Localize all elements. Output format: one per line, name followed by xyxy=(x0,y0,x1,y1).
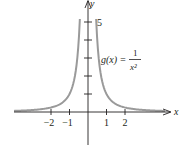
function-lhs: g(x) = xyxy=(101,54,129,66)
x-tick-label: 2 xyxy=(123,117,128,128)
curve-left-branch xyxy=(14,19,80,111)
y-axis-label: y xyxy=(89,0,95,9)
axes xyxy=(14,1,171,146)
fraction-denominator: x² xyxy=(129,62,137,72)
x-axis-label: x xyxy=(173,106,179,117)
function-label: g(x) = 1 x² xyxy=(101,48,141,72)
x-tick-label: −2 xyxy=(44,117,55,128)
curve-g-of-x xyxy=(14,19,165,111)
fraction-numerator: 1 xyxy=(133,48,138,58)
x-tick-label: 1 xyxy=(104,117,109,128)
x-tick-label: −1 xyxy=(62,117,73,128)
function-graph: −2−1125 x y g(x) = 1 x² xyxy=(0,0,189,154)
y-tick-label: 5 xyxy=(97,17,102,28)
tick-labels: −2−1125 xyxy=(44,17,128,128)
